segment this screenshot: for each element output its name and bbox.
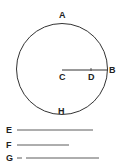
circle (17, 24, 108, 115)
label-d: D (88, 72, 95, 82)
label-f: F (6, 140, 12, 150)
label-e: E (6, 125, 12, 135)
label-b: B (109, 65, 116, 75)
label-c: C (59, 72, 66, 82)
label-g: G (6, 153, 13, 163)
label-h: H (58, 106, 65, 116)
geometry-diagram: A H C D B E F G (0, 0, 124, 164)
label-a: A (59, 10, 66, 20)
